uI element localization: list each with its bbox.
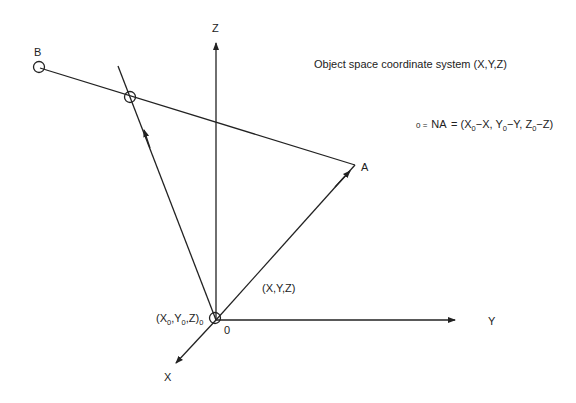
equation-prefix: 0 = — [416, 121, 428, 130]
vector-label: (X,Y,Z) — [262, 282, 295, 294]
x-axis-label: X — [164, 371, 172, 383]
projection-ray-arrow — [144, 130, 150, 148]
eq-part: −Z) — [536, 118, 553, 130]
eq-part: −X, Y — [476, 118, 504, 130]
z-axis-label: Z — [212, 22, 219, 34]
line-b-a — [40, 68, 355, 165]
equation-lhs: NA — [431, 118, 447, 130]
point-b-marker — [34, 62, 45, 73]
diagram-canvas: Z Y X B A 0 (X,Y,Z) (X0,Y0,Z)0 Object sp… — [0, 0, 576, 403]
center-z-sub: 0 — [199, 318, 203, 327]
vector-oa-arrow — [335, 171, 350, 187]
y-axis-label: Y — [488, 315, 496, 327]
vector-oa — [216, 165, 355, 320]
equation: 0 =NA = (X0−X, Y0−Y, Z0−Z) — [416, 118, 553, 133]
origin-label: 0 — [224, 324, 230, 336]
point-b-label: B — [34, 46, 41, 58]
projection-ray — [118, 66, 216, 320]
eq-part: (X — [461, 118, 473, 130]
point-a-label: A — [361, 161, 369, 173]
projection-center-label: (X0,Y0,Z)0 — [156, 312, 203, 327]
center-z: ,Z) — [186, 312, 199, 324]
eq-part: −Y, Z — [507, 118, 532, 130]
diagram-title: Object space coordinate system (X,Y,Z) — [314, 58, 507, 70]
center-y: ,Y — [171, 312, 182, 324]
center-x: (X — [156, 312, 168, 324]
